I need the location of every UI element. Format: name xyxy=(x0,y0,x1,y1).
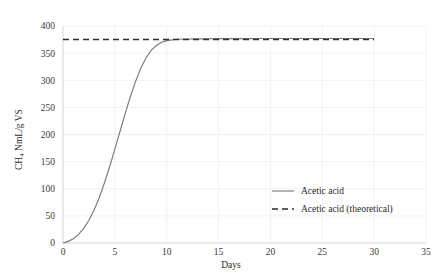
y-tick-label: 400 xyxy=(41,21,56,31)
y-tick-label: 350 xyxy=(41,49,56,59)
x-tick-label: 20 xyxy=(266,247,276,257)
x-tick-label: 10 xyxy=(162,247,172,257)
y-tick-label: 150 xyxy=(41,157,56,167)
chart-canvas: 050100150200250300350400 05101520253035 … xyxy=(0,0,439,278)
x-tick-label: 25 xyxy=(318,247,328,257)
x-tick-label: 30 xyxy=(369,247,379,257)
x-axis-title: Days xyxy=(221,260,241,270)
y-tick-label: 50 xyxy=(46,211,56,221)
x-tick-labels-group: 05101520253035 xyxy=(61,247,431,257)
x-tick-label: 15 xyxy=(214,247,224,257)
y-tick-label: 0 xyxy=(50,238,55,248)
legend-label: Acetic acid (theoretical) xyxy=(301,204,393,215)
chart-legend: Acetic acidAcetic acid (theoretical) xyxy=(272,186,393,215)
x-tick-label: 35 xyxy=(421,247,431,257)
methane-production-chart: 050100150200250300350400 05101520253035 … xyxy=(0,0,439,278)
legend-label: Acetic acid xyxy=(301,186,344,196)
svg-text:CH4 NmL/g VS: CH4 NmL/g VS xyxy=(14,109,26,170)
y-tick-label: 200 xyxy=(41,130,56,140)
y-tick-label: 100 xyxy=(41,184,56,194)
y-axis-title-prefix: CH xyxy=(14,157,24,170)
y-axis-title-suffix: NmL/g VS xyxy=(14,109,24,153)
y-tick-label: 300 xyxy=(41,76,56,86)
x-tick-label: 0 xyxy=(61,247,66,257)
y-tick-labels-group: 050100150200250300350400 xyxy=(41,21,56,248)
x-tick-label: 5 xyxy=(112,247,117,257)
y-axis-title: CH4 NmL/g VS xyxy=(14,109,26,170)
y-tick-label: 250 xyxy=(41,103,56,113)
